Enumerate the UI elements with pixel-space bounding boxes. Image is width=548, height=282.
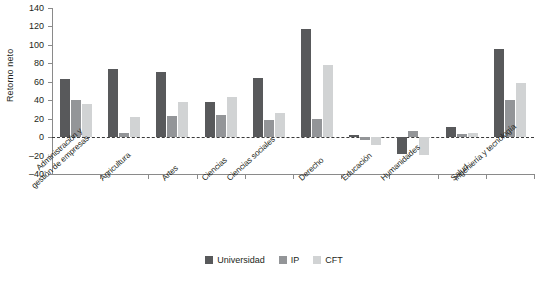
bar-group: [293, 8, 341, 174]
y-tick-label: 140: [29, 1, 44, 15]
bar-group: [438, 8, 486, 174]
y-tick-label: 80: [34, 56, 44, 70]
legend-label: Universidad: [217, 255, 265, 265]
legend-swatch: [313, 256, 321, 264]
bar-universidad: [108, 69, 118, 137]
bar-ip: [312, 119, 322, 137]
y-tick-label: 40: [34, 93, 44, 107]
bar-universidad: [60, 79, 70, 137]
bar-group: [197, 8, 245, 174]
y-tick: 0: [6, 137, 52, 138]
bar-group: [148, 8, 196, 174]
bar-ip: [167, 116, 177, 137]
bar-ip: [457, 134, 467, 137]
bar-universidad: [156, 72, 166, 137]
bar-group: [100, 8, 148, 174]
y-axis-title: Retorno neto: [2, 0, 18, 150]
bar-cft: [419, 137, 429, 155]
bar-cft: [323, 65, 333, 137]
y-tick: 120: [6, 26, 52, 27]
legend-swatch: [205, 256, 213, 264]
y-tick: 100: [6, 45, 52, 46]
y-tick: 20: [6, 119, 52, 120]
bar-universidad: [301, 29, 311, 137]
y-tick-label: 120: [29, 19, 44, 33]
legend-item: IP: [279, 255, 300, 265]
y-tick: 80: [6, 63, 52, 64]
bar-cft: [130, 117, 140, 137]
y-tick-label: 60: [34, 75, 44, 89]
legend-label: IP: [291, 255, 300, 265]
bar-cft: [371, 137, 381, 145]
bar-ip: [360, 137, 370, 140]
x-axis-labels: Administración ygestión de empresasAgric…: [52, 174, 548, 252]
legend-label: CFT: [325, 255, 343, 265]
bar-universidad: [446, 127, 456, 137]
bar-chart-figure: Retorno neto 140120100806040200–20–40 Ad…: [0, 0, 548, 282]
chart-legend: UniversidadIPCFT: [0, 255, 548, 265]
legend-item: CFT: [313, 255, 343, 265]
bar-universidad: [205, 102, 215, 137]
bar-ip: [119, 133, 129, 137]
plot-area: 140120100806040200–20–40: [52, 8, 534, 174]
legend-item: Universidad: [205, 255, 265, 265]
bar-universidad: [253, 78, 263, 137]
y-tick-label: 0: [39, 130, 44, 144]
y-tick: 60: [6, 82, 52, 83]
bar-universidad: [494, 49, 504, 138]
bar-universidad: [349, 135, 359, 137]
bar-cft: [275, 113, 285, 137]
legend-swatch: [279, 256, 287, 264]
y-tick: 140: [6, 8, 52, 9]
y-tick: 40: [6, 100, 52, 101]
bar-cft: [468, 133, 478, 138]
bar-ip: [264, 120, 274, 138]
bar-group: [341, 8, 389, 174]
bar-ip: [216, 115, 226, 137]
bar-cft: [178, 102, 188, 137]
bar-cft: [227, 97, 237, 137]
bar-ip: [408, 131, 418, 137]
y-tick-label: 20: [34, 112, 44, 126]
y-tick-label: 100: [29, 38, 44, 52]
